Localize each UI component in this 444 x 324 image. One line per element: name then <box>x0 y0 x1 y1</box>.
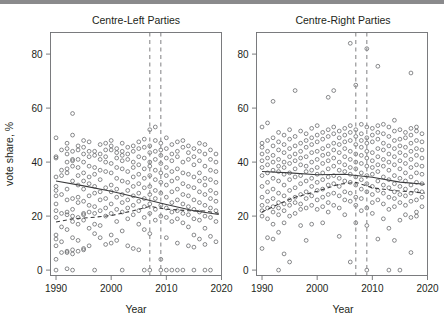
y-tick-label: 20 <box>31 211 43 222</box>
y-tick-label: 40 <box>31 157 43 168</box>
x-tick-label: 1990 <box>251 283 274 294</box>
x-tick-label: 2020 <box>210 283 233 294</box>
y-tick-label: 60 <box>237 103 249 114</box>
scatter-figure-container: Centre-Left Parties 1990200020102020 020… <box>0 0 444 324</box>
x-tick-label: 2000 <box>100 283 123 294</box>
y-tick-label: 60 <box>31 103 43 114</box>
y-tick-label: 0 <box>37 265 43 276</box>
panel-title-centre-left: Centre-Left Parties <box>92 14 180 26</box>
y-axis-label: vote share, % <box>3 122 15 186</box>
y-tick-label: 80 <box>31 49 43 60</box>
x-tick-label: 1990 <box>45 283 68 294</box>
y-tick-label: 0 <box>243 265 249 276</box>
top-border-bar <box>0 0 444 4</box>
y-tick-label: 80 <box>237 49 249 60</box>
scatter-plot-svg: Centre-Left Parties 1990200020102020 020… <box>0 0 444 324</box>
panel-title-centre-right: Centre-Right Parties <box>295 14 390 26</box>
x-axis-label-centre-right: Year <box>332 303 354 315</box>
x-tick-label: 2000 <box>306 283 329 294</box>
y-tick-label: 40 <box>237 157 249 168</box>
x-tick-label: 2020 <box>416 283 439 294</box>
x-tick-label: 2010 <box>155 283 178 294</box>
x-tick-label: 2010 <box>361 283 384 294</box>
x-axis-label-centre-left: Year <box>125 303 147 315</box>
y-tick-label: 20 <box>237 211 249 222</box>
